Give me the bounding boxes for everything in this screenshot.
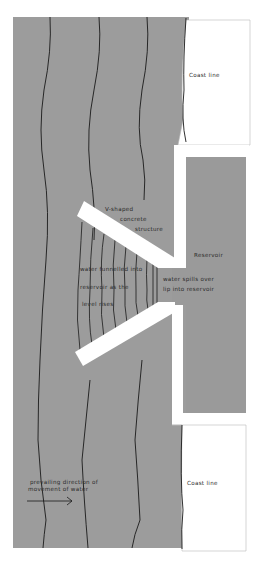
spill-label-1: water spills over (163, 276, 215, 283)
sea-area (13, 17, 189, 548)
funnel-label-2: reservoir as the (80, 284, 129, 290)
coast-line-label-top: Coast line (189, 72, 220, 78)
v-structure-label-3: structure (135, 226, 163, 232)
coast-land-top (178, 20, 250, 145)
coast-line-label-bottom: Coast line (187, 480, 218, 486)
reservoir-label: Reservoir (194, 252, 223, 258)
funnel-label-3: level rises (82, 301, 114, 307)
spill-label-2: lip into reservoir (163, 286, 215, 293)
direction-label-2: movement of water (28, 486, 89, 492)
direction-label-1: prevailing direction of (30, 479, 99, 486)
funnel-label-1: water funnelled into (80, 266, 143, 272)
reservoir-area (186, 157, 246, 413)
coast-land-bottom (172, 425, 246, 551)
v-structure-label-2: concrete (120, 216, 147, 222)
v-structure-label-1: V-shaped (105, 206, 133, 213)
tidal-reservoir-diagram: Coast line Coast line V-shaped concrete … (0, 0, 256, 565)
